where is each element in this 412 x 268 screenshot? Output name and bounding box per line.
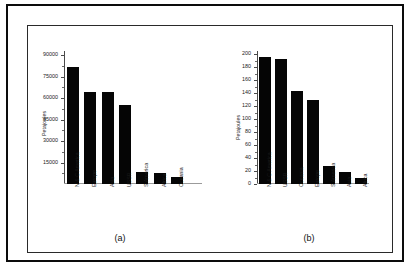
y-tick-minor — [62, 173, 64, 174]
y-tick-label: 90000 — [43, 53, 58, 58]
y-tick-minor — [62, 152, 64, 153]
x-category-label: S America — [331, 163, 336, 187]
y-tick-label: 100 — [242, 116, 251, 121]
y-tick-a-3: 60000 — [61, 98, 64, 99]
panel-caption-b: (b) — [289, 234, 329, 243]
y-tick-minor — [255, 178, 257, 179]
x-category-label: Asia — [347, 177, 352, 187]
x-category-label: Europe — [92, 170, 97, 187]
y-tick-minor — [255, 126, 257, 127]
y-tick-minor — [255, 74, 257, 75]
y-tick-label: 160 — [242, 77, 251, 82]
y-tick-minor — [62, 109, 64, 110]
y-tick-label: 40 — [245, 155, 251, 160]
y-tick-b-4: 80 — [254, 132, 257, 133]
y-tick-label: 200 — [242, 52, 251, 57]
y-tick-label: 60 — [245, 142, 251, 147]
y-tick-label: 30000 — [43, 138, 58, 143]
y-tick-label: 45000 — [43, 117, 58, 122]
y-tick-label: 140 — [242, 90, 251, 95]
y-tick-a-1: 30000 — [61, 141, 64, 142]
chart-panel-a: Petajoules 15000300004500060000750009000… — [28, 26, 211, 254]
y-tick-minor — [62, 87, 64, 88]
y-tick-label: 80 — [245, 129, 251, 134]
y-tick-label: 75000 — [43, 74, 58, 79]
x-category-label: S America — [144, 163, 149, 187]
y-axis-line-a — [64, 51, 65, 184]
y-tick-minor — [255, 165, 257, 166]
y-tick-minor — [255, 139, 257, 140]
y-tick-b-1: 20 — [254, 171, 257, 172]
y-tick-a-2: 45000 — [61, 120, 64, 121]
x-category-label: N & C America — [267, 152, 272, 187]
y-tick-b-7: 140 — [254, 93, 257, 94]
bar — [102, 92, 114, 184]
chart-panel-b: Petajoules 020406080100120140160180200 (… — [211, 26, 394, 254]
x-category-label: N & C America — [75, 152, 80, 187]
y-tick-a-4: 75000 — [61, 77, 64, 78]
y-tick-minor — [255, 113, 257, 114]
x-category-label: Africa — [162, 173, 167, 187]
y-tick-minor — [62, 130, 64, 131]
y-axis-title-b: Petajoules — [235, 115, 241, 140]
outer-frame: Petajoules 15000300004500060000750009000… — [6, 4, 404, 262]
x-category-label: Europe — [315, 170, 320, 187]
x-category-label: Asia — [110, 177, 115, 187]
x-category-label: USSR — [127, 172, 132, 187]
x-category-label: Oceania — [179, 167, 184, 187]
y-tick-minor — [255, 61, 257, 62]
y-tick-b-8: 160 — [254, 80, 257, 81]
plot-area-b: 020406080100120140160180200 — [257, 51, 369, 184]
y-tick-label: 60000 — [43, 95, 58, 100]
y-axis-title-a: Petajoules — [41, 111, 47, 136]
y-tick-label: 15000 — [43, 160, 58, 165]
x-category-label: Oceania — [299, 167, 304, 187]
y-tick-label: 20 — [245, 168, 251, 173]
y-tick-b-2: 40 — [254, 158, 257, 159]
figure-root: Petajoules 15000300004500060000750009000… — [0, 0, 412, 268]
y-tick-b-9: 180 — [254, 67, 257, 68]
y-tick-b-10: 200 — [254, 54, 257, 55]
y-tick-b-5: 100 — [254, 119, 257, 120]
y-tick-minor — [255, 100, 257, 101]
plot-area-a: 150003000045000600007500090000 — [64, 51, 186, 184]
y-tick-label: 180 — [242, 65, 251, 70]
panel-caption-a: (a) — [100, 234, 140, 243]
y-tick-minor — [62, 66, 64, 67]
y-tick-minor — [255, 152, 257, 153]
y-tick-b-3: 60 — [254, 145, 257, 146]
y-tick-b-6: 120 — [254, 106, 257, 107]
y-tick-label: 120 — [242, 103, 251, 108]
y-axis-line-b — [257, 51, 258, 184]
bar — [275, 59, 287, 184]
y-tick-b-0: 0 — [254, 184, 257, 185]
x-category-label: USSR — [283, 172, 288, 187]
y-tick-label: 0 — [248, 181, 251, 186]
x-category-label: Africa — [363, 173, 368, 187]
y-tick-minor — [255, 87, 257, 88]
y-tick-a-5: 90000 — [61, 55, 64, 56]
y-tick-a-0: 15000 — [61, 163, 64, 164]
inner-panel: Petajoules 15000300004500060000750009000… — [27, 25, 393, 253]
